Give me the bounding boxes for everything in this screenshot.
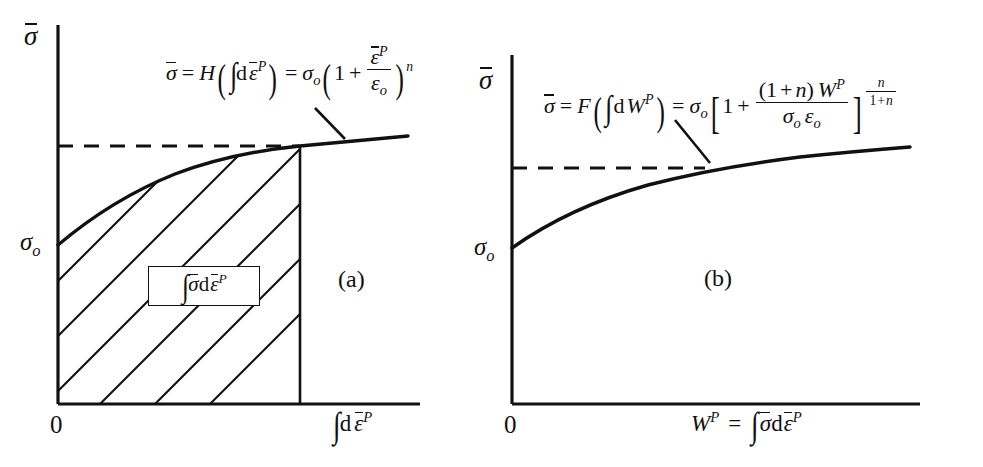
panel-b-sigma-o-label: σo — [474, 234, 495, 265]
panel-a-label: (a) — [338, 267, 365, 291]
panel-b-origin-label: 0 — [504, 412, 517, 437]
panel-a: σ σo 0 σ=H(∫dεP)=σo(1+εPεo)n ∫σdεP (a) ∫… — [0, 0, 470, 467]
panel-b-label: (b) — [704, 266, 732, 290]
panel-a-x-axis-label: ∫dεP — [332, 408, 372, 444]
panel-a-equation: σ=H(∫dεP)=σo(1+εPεo)n — [166, 44, 413, 100]
panel-b-equation: σ=F(∫dWP)=σo[1+(1+n)WPσoεo]n1+n — [544, 76, 898, 136]
panel-a-origin-label: 0 — [50, 412, 63, 437]
panel-a-sigma-o-label: σo — [20, 229, 41, 260]
figure-container: σ σo 0 σ=H(∫dεP)=σo(1+εPεo)n ∫σdεP (a) ∫… — [0, 0, 983, 467]
panel-b-y-axis-label: σ — [479, 66, 492, 94]
equation-leader-line — [315, 108, 345, 139]
work-hardening-curve — [512, 147, 910, 248]
panel-a-y-axis-label: σ — [24, 22, 37, 50]
panel-b-x-axis-label: WP=∫σdεP — [691, 408, 802, 444]
panel-b: σ σo 0 σ=F(∫dWP)=σo[1+(1+n)WPσoεo]n1+n (… — [470, 0, 983, 467]
panel-b-graphics — [470, 0, 983, 467]
plastic-work-annotation-box: ∫σdεP — [148, 266, 260, 306]
plastic-work-annotation-text: ∫σdεP — [181, 270, 226, 303]
